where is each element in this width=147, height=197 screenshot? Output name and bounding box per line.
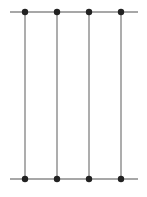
top-node-4 — [118, 9, 124, 15]
bottom-node-2 — [54, 176, 60, 182]
bottom-node-4 — [118, 176, 124, 182]
bottom-node-1 — [22, 176, 28, 182]
top-node-3 — [86, 9, 92, 15]
ladder-diagram — [0, 0, 147, 197]
bottom-node-3 — [86, 176, 92, 182]
top-node-2 — [54, 9, 60, 15]
top-node-1 — [22, 9, 28, 15]
